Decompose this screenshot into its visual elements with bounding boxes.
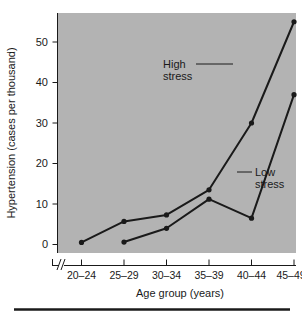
x-axis-title: Age group (years) (136, 287, 224, 299)
data-point-high-stress-1 (121, 219, 126, 224)
y-tick-label-40: 40 (36, 76, 48, 88)
data-point-high-stress-0 (79, 240, 84, 245)
x-tick-label-40-44: 40–44 (237, 269, 266, 281)
x-tick-label-35-39: 35–39 (194, 269, 223, 281)
y-tick-label-10: 10 (36, 198, 48, 210)
data-point-low-stress-4 (291, 92, 296, 97)
x-tick-label-30-34: 30–34 (152, 269, 181, 281)
data-point-high-stress-3 (206, 187, 211, 192)
y-tick-label-50: 50 (36, 36, 48, 48)
annotation-high-stress-label-line1: High (163, 58, 186, 70)
plot-area-background (58, 13, 296, 253)
data-point-low-stress-3 (249, 216, 254, 221)
data-point-low-stress-1 (164, 226, 169, 231)
chart-figure: 0 10 20 30 40 50 Hypertension (cases per… (0, 0, 302, 316)
x-tick-label-20-24: 20–24 (67, 269, 96, 281)
y-axis-title: Hypertension (cases per thousand) (5, 47, 17, 218)
data-point-low-stress-2 (206, 197, 211, 202)
data-point-high-stress-4 (249, 120, 254, 125)
y-tick-label-0: 0 (42, 238, 48, 250)
y-tick-label-30: 30 (36, 117, 48, 129)
data-point-low-stress-0 (121, 239, 126, 244)
x-tick-label-45-49: 45–49 (276, 269, 302, 281)
annotation-high-stress-label-line2: stress (163, 70, 193, 82)
hypertension-by-age-line-chart: 0 10 20 30 40 50 Hypertension (cases per… (0, 0, 302, 316)
x-tick-label-25-29: 25–29 (109, 269, 138, 281)
annotation-low-stress-label-line2: stress (255, 178, 285, 190)
annotation-low-stress-label-line1: Low (255, 166, 275, 178)
data-point-high-stress-5 (291, 19, 296, 24)
data-point-high-stress-2 (164, 212, 169, 217)
y-tick-label-20: 20 (36, 157, 48, 169)
